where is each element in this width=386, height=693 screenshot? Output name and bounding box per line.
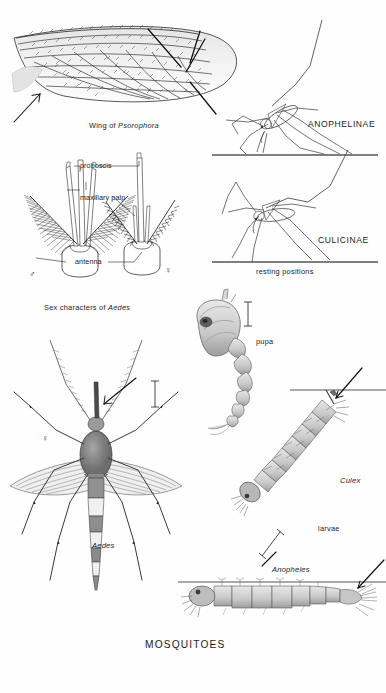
culicinae-diagram xyxy=(212,150,378,262)
label-larvae-group: larvae xyxy=(318,525,340,532)
label-anophelinae: ANOPHELINAE xyxy=(308,120,375,129)
mosquito-illustration-plate: Wing of Psorophora proboscis maxillary p… xyxy=(0,0,386,693)
plate-artwork xyxy=(0,0,386,693)
adult-aedes-figure xyxy=(10,340,182,590)
plate-title: MOSQUITOES xyxy=(145,640,225,650)
wing-figure xyxy=(12,25,237,122)
resting-positions-caption: resting positions xyxy=(256,268,314,275)
anophelinae-diagram xyxy=(212,20,378,155)
label-pupa: pupa xyxy=(256,338,273,345)
anopheles-larva-figure xyxy=(178,552,386,617)
label-culicinae: CULICINAE xyxy=(318,236,369,245)
label-maxillary-palp: maxillary palp xyxy=(80,194,125,201)
female-symbol-adult: ♀ xyxy=(42,434,48,443)
label-aedes-adult: Aedes xyxy=(92,542,115,550)
label-anopheles: Anopheles xyxy=(272,566,310,574)
sex-characters-caption: Sex characters of Aedes xyxy=(44,304,130,311)
female-symbol-head: ♀ xyxy=(165,266,171,275)
label-culex: Culex xyxy=(340,477,360,485)
wing-caption: Wing of Psorophora xyxy=(89,122,159,129)
culex-larva-figure xyxy=(231,368,386,559)
label-antenna: antenna xyxy=(75,258,102,265)
pupa-figure xyxy=(197,289,252,435)
male-symbol-head: ♂ xyxy=(29,270,35,279)
label-proboscis: proboscis xyxy=(80,162,112,169)
resting-positions-figure xyxy=(212,20,378,262)
